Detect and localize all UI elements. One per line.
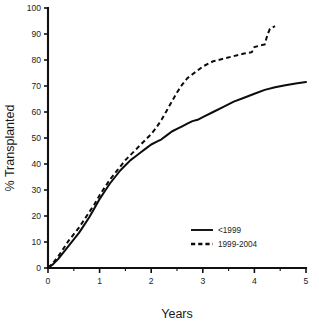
x-axis-title: Years: [161, 307, 193, 321]
x-axis-group: 012345: [46, 268, 309, 286]
y-tick-label: 30: [31, 185, 41, 195]
chart-legend: <19991999-2004: [191, 226, 258, 249]
x-axis-tick-labels: 012345: [46, 276, 309, 286]
y-tick-label: 90: [31, 29, 41, 39]
y-tick-label: 10: [31, 237, 41, 247]
x-tick-label: 3: [200, 276, 205, 286]
y-tick-label: 0: [36, 263, 41, 273]
x-tick-label: 2: [149, 276, 154, 286]
y-tick-label: 100: [27, 3, 42, 13]
y-tick-label: 20: [31, 211, 41, 221]
y-tick-label: 40: [31, 159, 41, 169]
x-tick-label: 1: [97, 276, 102, 286]
series-group: [48, 26, 306, 268]
series-line-0: [48, 82, 306, 268]
x-tick-label: 5: [304, 276, 309, 286]
y-axis-tick-labels: 0102030405060708090100: [27, 3, 42, 273]
y-tick-label: 70: [31, 81, 41, 91]
y-tick-label: 60: [31, 107, 41, 117]
chart-container: 0102030405060708090100 012345 Years % Tr…: [0, 0, 319, 325]
y-axis-group: 0102030405060708090100: [27, 3, 48, 273]
y-axis-title: % Transplanted: [3, 105, 17, 192]
legend-label: <1999: [218, 226, 241, 235]
y-tick-label: 80: [31, 55, 41, 65]
legend-label: 1999-2004: [218, 240, 258, 249]
y-tick-label: 50: [31, 133, 41, 143]
x-tick-label: 0: [46, 276, 51, 286]
chart-plot: 0102030405060708090100 012345 Years % Tr…: [0, 0, 319, 325]
x-tick-label: 4: [252, 276, 257, 286]
